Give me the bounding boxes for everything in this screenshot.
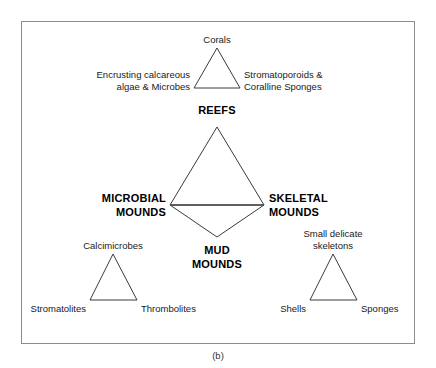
node-label-skeletal-mounds-line2: MOUNDS xyxy=(269,206,319,218)
central-upper-triangle-shape xyxy=(170,127,264,205)
central-lower-triangle-shape xyxy=(170,205,264,237)
reef-left-label-line2: algae & Microbes xyxy=(117,81,191,92)
node-label-mud-mounds-line2: MOUNDS xyxy=(192,258,242,270)
skeletal-apex-label-line1: Small delicate xyxy=(303,228,362,239)
central-diamond-group xyxy=(170,127,264,237)
reef-right-label-line1: Stromatoporoids & xyxy=(244,69,323,80)
node-label-microbial-mounds-group: MICROBIAL MOUNDS xyxy=(102,192,166,218)
figure-root: Corals Encrusting calcareous algae & Mic… xyxy=(0,0,436,368)
skeletal-right-label: Sponges xyxy=(361,303,399,314)
microbial-triangle-group: Calcimicrobes Stromatolites Thrombolites xyxy=(31,240,197,314)
node-label-skeletal-mounds-group: SKELETAL MOUNDS xyxy=(269,192,328,218)
skeletal-left-label: Shells xyxy=(280,303,306,314)
node-label-reefs: REEFS xyxy=(198,104,236,116)
microbial-left-label: Stromatolites xyxy=(31,303,87,314)
reef-left-label-line1: Encrusting calcareous xyxy=(97,69,191,80)
reef-triangle-group: Corals Encrusting calcareous algae & Mic… xyxy=(97,34,324,92)
node-label-mud-mounds-line1: MUD xyxy=(204,244,230,256)
node-label-microbial-mounds-line1: MICROBIAL xyxy=(102,192,166,204)
microbial-right-label: Thrombolites xyxy=(141,303,196,314)
classification-diagram: Corals Encrusting calcareous algae & Mic… xyxy=(0,0,436,368)
node-label-microbial-mounds-line2: MOUNDS xyxy=(116,206,166,218)
node-label-mud-mounds-group: MUD MOUNDS xyxy=(192,244,242,270)
microbial-triangle-shape xyxy=(90,254,137,300)
skeletal-triangle-shape xyxy=(310,254,357,300)
reef-right-label-line2: Coralline Sponges xyxy=(244,81,322,92)
microbial-apex-label: Calcimicrobes xyxy=(83,240,143,251)
skeletal-triangle-group: Small delicate skeletons Shells Sponges xyxy=(280,228,399,314)
figure-caption: (b) xyxy=(0,350,436,361)
reef-triangle-shape xyxy=(194,48,240,88)
skeletal-apex-label-line2: skeletons xyxy=(313,240,353,251)
reef-apex-label: Corals xyxy=(203,34,231,45)
node-label-skeletal-mounds-line1: SKELETAL xyxy=(269,192,328,204)
